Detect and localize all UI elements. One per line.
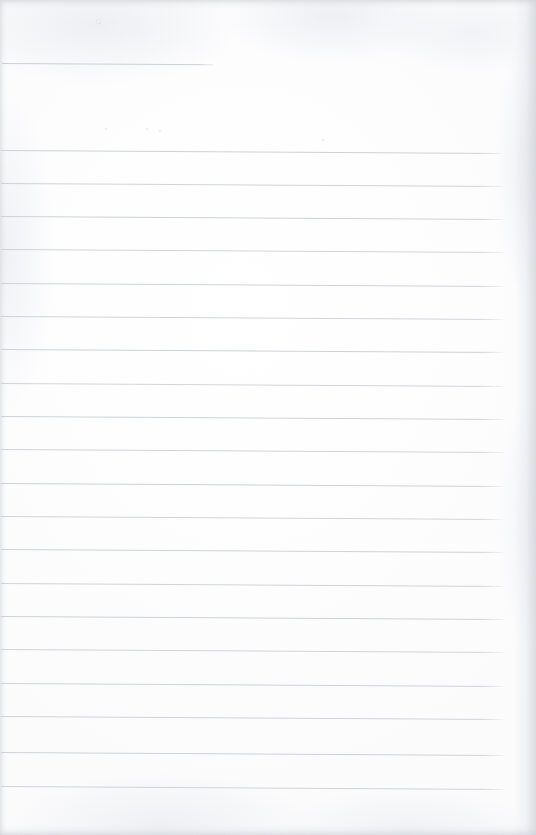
scanned-page bbox=[0, 0, 536, 835]
page-text-content bbox=[0, 0, 536, 835]
